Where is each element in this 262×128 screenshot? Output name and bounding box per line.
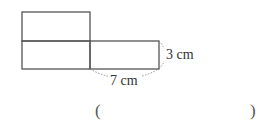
width-label: 3 cm <box>166 47 194 62</box>
length-label: 7 cm <box>110 73 138 88</box>
rectangle-top-left <box>22 12 90 41</box>
rectangle-bottom-right <box>90 41 159 69</box>
composite-rectangle-figure: 3 cm 7 cm ( ) <box>0 0 262 128</box>
answer-close-paren: ) <box>250 101 256 120</box>
rectangle-bottom-left <box>22 41 90 69</box>
answer-open-paren: ( <box>95 101 101 120</box>
